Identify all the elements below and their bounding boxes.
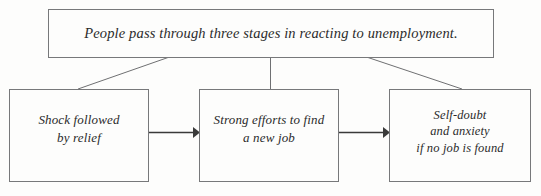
stage-box-shock: Shock followed by relief <box>9 89 149 182</box>
stage-label-2: Strong efforts to find a new job <box>214 111 325 159</box>
stage-box-job-search: Strong efforts to find a new job <box>199 89 339 182</box>
stage-label-1: Shock followed by relief <box>38 111 119 159</box>
flowchart-diagram: People pass through three stages in reac… <box>0 0 541 196</box>
statement-box: People pass through three stages in reac… <box>48 9 494 58</box>
statement-text: People pass through three stages in reac… <box>84 24 458 43</box>
arrow-stage1-to-stage2 <box>149 127 200 138</box>
arrow-stage2-to-stage3 <box>339 127 390 138</box>
branch-left-line <box>78 58 168 90</box>
stage-label-3: Self-doubt and anxiety if no job is foun… <box>416 107 503 165</box>
stage-box-self-doubt: Self-doubt and anxiety if no job is foun… <box>389 89 531 182</box>
branch-right-line <box>368 58 462 90</box>
